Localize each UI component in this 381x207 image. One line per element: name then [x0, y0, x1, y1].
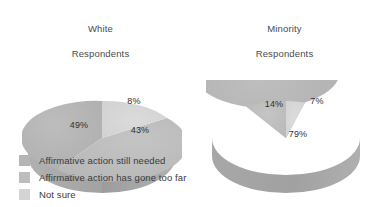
pie-white-label-still-needed: 49% — [70, 120, 89, 130]
pie-minority-svg — [206, 80, 366, 198]
pie-minority-label-not-sure: 7% — [310, 96, 323, 106]
pie-minority-label-gone-too-far: 14% — [265, 99, 284, 109]
pie-chart-figure: White Respondents — [0, 0, 381, 207]
chart-title-minority: Minority Respondents — [212, 10, 357, 60]
legend: Affirmative action still needed Affirmat… — [19, 152, 187, 203]
pie-minority-label-still-needed: 79% — [289, 129, 308, 139]
pie-white-label-not-sure: 8% — [127, 96, 140, 106]
chart-title-white-line2: Respondents — [72, 48, 130, 59]
chart-minority-respondents: Minority Respondents — [212, 10, 357, 180]
legend-swatch-not-sure — [19, 189, 30, 200]
pie-minority-side — [212, 138, 360, 193]
legend-label-still-needed: Affirmative action still needed — [39, 155, 166, 166]
legend-label-not-sure: Not sure — [39, 189, 76, 200]
legend-item-still-needed: Affirmative action still needed — [19, 152, 187, 169]
chart-title-white-line1: White — [88, 23, 113, 34]
pie-minority: 14% 7% 79% — [212, 60, 357, 180]
legend-swatch-still-needed — [19, 155, 30, 166]
pie-white-label-gone-too-far: 43% — [131, 125, 150, 135]
legend-swatch-gone-too-far — [19, 172, 30, 183]
chart-title-white: White Respondents — [28, 10, 173, 60]
legend-label-gone-too-far: Affirmative action has gone too far — [39, 172, 187, 183]
chart-title-minority-line1: Minority — [267, 23, 301, 34]
chart-title-minority-line2: Respondents — [256, 48, 314, 59]
legend-item-not-sure: Not sure — [19, 186, 187, 203]
legend-item-gone-too-far: Affirmative action has gone too far — [19, 169, 187, 186]
